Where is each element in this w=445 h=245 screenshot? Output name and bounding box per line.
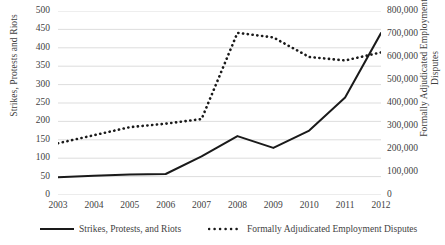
plot-area	[58, 11, 381, 195]
left-tick-label: 500	[16, 5, 50, 15]
x-tick-label: 2012	[361, 200, 401, 210]
left-tick-label: 350	[16, 60, 50, 70]
legend-swatch-solid-icon	[40, 224, 74, 234]
left-tick-label: 300	[16, 79, 50, 89]
series-line-2	[58, 33, 381, 143]
right-tick-label: 200,000	[387, 143, 437, 153]
legend-item-disputes[interactable]: Formally Adjudicated Employment Disputes	[208, 224, 417, 234]
right-tick-label: 800,000	[387, 5, 437, 15]
right-tick-label: 0	[387, 189, 437, 199]
right-tick-label: 400,000	[387, 97, 437, 107]
plot-svg	[58, 11, 381, 195]
left-tick-label: 250	[16, 97, 50, 107]
left-tick-label: 450	[16, 23, 50, 33]
left-tick-label: 200	[16, 115, 50, 125]
left-tick-label: 100	[16, 152, 50, 162]
left-tick-label: 0	[16, 189, 50, 199]
right-tick-label: 300,000	[387, 120, 437, 130]
legend-swatch-dotted-icon	[208, 224, 242, 234]
right-tick-label: 500,000	[387, 74, 437, 84]
left-tick-label: 400	[16, 42, 50, 52]
legend-label-strikes: Strikes, Protests, and Riots	[79, 224, 181, 234]
gridlines	[58, 11, 381, 195]
x-tick-label: 2005	[110, 200, 150, 210]
x-tick-label: 2007	[182, 200, 222, 210]
x-tick-label: 2008	[217, 200, 257, 210]
x-tick-label: 2004	[74, 200, 114, 210]
right-tick-label: 100,000	[387, 166, 437, 176]
legend-item-strikes[interactable]: Strikes, Protests, and Riots	[40, 224, 181, 234]
x-tick-label: 2009	[253, 200, 293, 210]
x-tick-label: 2011	[325, 200, 365, 210]
series-line-1	[58, 33, 381, 177]
x-tick-label: 2010	[289, 200, 329, 210]
x-tick-label: 2006	[146, 200, 186, 210]
chart-legend: Strikes, Protests, and Riots Formally Ad…	[0, 224, 445, 244]
series-lines	[58, 33, 381, 177]
right-axis-title-line1: Formally Adjudicated Employment	[419, 0, 429, 137]
right-tick-label: 600,000	[387, 51, 437, 61]
left-tick-label: 50	[16, 171, 50, 181]
right-tick-label: 700,000	[387, 28, 437, 38]
chart-container: Strikes, Protests and Riots Formally Adj…	[0, 0, 445, 245]
legend-label-disputes: Formally Adjudicated Employment Disputes	[247, 224, 417, 234]
x-tick-label: 2003	[38, 200, 78, 210]
left-tick-label: 150	[16, 134, 50, 144]
